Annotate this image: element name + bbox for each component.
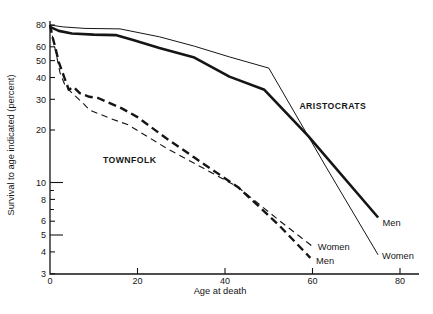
y-tick-label-10: 10 [36, 178, 46, 188]
y-tick-label-60: 60 [36, 42, 46, 52]
annotation-townfolk-men-label: Men [316, 256, 334, 266]
series-townfolk-men [50, 25, 310, 258]
y-tick-label-3: 3 [41, 269, 46, 279]
x-tick-label-20: 20 [132, 276, 142, 286]
annotation-townfolk: TOWNFOLK [103, 155, 157, 165]
annotation-aristocrats-men-label: Men [383, 218, 401, 228]
x-tick-label-60: 60 [307, 276, 317, 286]
annotation-townfolk-women-label: Women [318, 242, 350, 252]
y-tick-label-6: 6 [41, 216, 46, 226]
y-axis-title: Survival to age indicated (percent) [6, 74, 16, 215]
y-tick-label-4: 4 [41, 247, 46, 257]
x-axis-title: Age at death [40, 286, 400, 296]
annotation-aristocrats: ARISTOCRATS [299, 101, 366, 111]
y-tick-label-8: 8 [41, 195, 46, 205]
y-tick-label-20: 20 [36, 125, 46, 135]
y-tick-label-5: 5 [41, 230, 46, 240]
y-tick-label-80: 80 [36, 20, 46, 30]
series-aristocrats-women [50, 25, 378, 255]
x-tick-label-40: 40 [220, 276, 230, 286]
x-tick-label-80: 80 [395, 276, 405, 286]
y-tick-label-40: 40 [36, 73, 46, 83]
axes-frame [50, 21, 419, 274]
annotation-aristocrats-women-label: Women [382, 251, 414, 261]
y-tick-label-30: 30 [36, 95, 46, 105]
series-townfolk-women [50, 25, 313, 246]
x-tick-label-0: 0 [47, 276, 52, 286]
series-aristocrats-men [50, 27, 378, 218]
y-tick-label-50: 50 [36, 56, 46, 66]
survival-chart-figure: 8060504030201086543020406080ARISTOCRATST… [0, 0, 433, 314]
survival-chart-svg: 8060504030201086543020406080ARISTOCRATST… [0, 0, 433, 314]
